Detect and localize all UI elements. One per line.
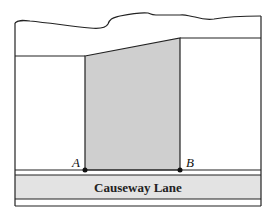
point-a-marker <box>83 168 88 173</box>
point-a-label: A <box>71 155 80 170</box>
wavy-top-boundary <box>15 13 261 29</box>
point-b-marker <box>178 168 183 173</box>
shaded-lot <box>85 38 180 170</box>
plot-diagram: A B Causeway Lane <box>0 0 273 215</box>
point-b-label: B <box>186 155 194 170</box>
road-label: Causeway Lane <box>94 180 182 195</box>
